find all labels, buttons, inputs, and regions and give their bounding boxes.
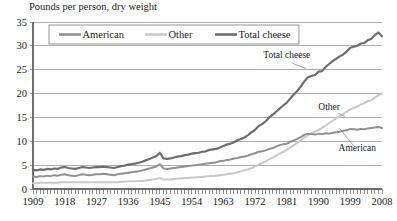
x-tick-label-1999: 1999: [340, 196, 361, 207]
legend-label-total-cheese: Total cheese: [239, 29, 291, 40]
y-axis-group: 05101520253035: [17, 17, 34, 195]
x-tick-label-1918: 1918: [54, 196, 75, 207]
annotation-label-total-cheese: Total cheese: [263, 50, 310, 60]
x-tick-label-1945: 1945: [149, 196, 170, 207]
annotation-label-american: American: [339, 143, 377, 153]
y-tick-label-10: 10: [17, 136, 28, 147]
y-tick-label-5: 5: [22, 160, 27, 171]
chart-container: Pounds per person, dry weight 0510152025…: [0, 0, 397, 221]
x-tick-label-1927: 1927: [86, 196, 107, 207]
legend-group: AmericanOtherTotal cheese: [49, 25, 299, 44]
x-axis-group: 1909191819271936194519541963197219811990…: [23, 189, 393, 207]
y-tick-label-15: 15: [17, 112, 28, 123]
x-tick-label-1954: 1954: [181, 196, 203, 207]
annotations-group: Total cheeseOtherAmerican: [263, 50, 376, 153]
annotation-leader-0: [292, 63, 306, 69]
y-tick-label-30: 30: [17, 40, 28, 51]
x-tick-label-2008: 2008: [372, 196, 393, 207]
x-tick-label-1990: 1990: [308, 196, 329, 207]
series-line-american: [33, 127, 382, 177]
y-tick-label-25: 25: [17, 64, 28, 75]
line-chart-svg: 05101520253035 1909191819271936194519541…: [0, 0, 397, 221]
x-tick-label-1909: 1909: [23, 196, 44, 207]
legend-label-american: American: [83, 29, 125, 40]
x-tick-label-1963: 1963: [213, 196, 234, 207]
x-tick-label-1936: 1936: [118, 196, 139, 207]
y-tick-label-20: 20: [17, 88, 28, 99]
x-tick-label-1981: 1981: [276, 196, 297, 207]
legend-label-other: Other: [169, 29, 193, 40]
y-tick-label-35: 35: [17, 17, 28, 28]
y-tick-label-0: 0: [22, 184, 27, 195]
annotation-label-other: Other: [318, 102, 340, 112]
x-tick-label-1972: 1972: [245, 196, 266, 207]
